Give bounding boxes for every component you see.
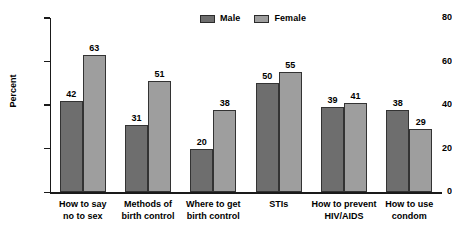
bar-value-label: 31 xyxy=(131,114,141,123)
bar-female-4: 41 xyxy=(344,103,367,192)
bar-value-label: 20 xyxy=(197,138,207,147)
x-axis-line xyxy=(50,192,442,193)
plot-area: 426331512038505539413829 xyxy=(50,18,442,192)
bar-chart: Male Female Percent 020406080 4263315120… xyxy=(0,0,452,242)
bar-female-0: 63 xyxy=(83,55,106,192)
bar-female-5: 29 xyxy=(409,129,432,192)
bar-value-label: 41 xyxy=(350,92,360,101)
bar-value-label: 38 xyxy=(393,99,403,108)
bar-female-1: 51 xyxy=(148,81,171,192)
x-axis-label: How to use condom xyxy=(369,199,450,222)
bar-group: 3941 xyxy=(311,18,376,192)
bar-female-3: 55 xyxy=(279,72,302,192)
bar-group-bars: 3829 xyxy=(377,18,442,192)
bar-group-bars: 3941 xyxy=(311,18,376,192)
bar-group: 2038 xyxy=(181,18,246,192)
bar-male-4: 39 xyxy=(321,107,344,192)
bar-value-label: 39 xyxy=(327,96,337,105)
bar-value-label: 50 xyxy=(262,72,272,81)
bar-male-5: 38 xyxy=(386,110,409,193)
bar-male-1: 31 xyxy=(125,125,148,193)
y-axis-title: Percent xyxy=(8,61,18,121)
bar-group-bars: 5055 xyxy=(246,18,311,192)
bar-male-0: 42 xyxy=(60,101,83,193)
bar-value-label: 51 xyxy=(154,70,164,79)
bar-group-bars: 4263 xyxy=(50,18,115,192)
bar-group-bars: 2038 xyxy=(181,18,246,192)
bar-male-3: 50 xyxy=(256,83,279,192)
bar-female-2: 38 xyxy=(213,110,236,193)
bar-value-label: 29 xyxy=(416,118,426,127)
bar-group: 3151 xyxy=(115,18,180,192)
bar-value-label: 42 xyxy=(66,90,76,99)
bar-value-label: 38 xyxy=(220,99,230,108)
bar-group-bars: 3151 xyxy=(115,18,180,192)
bar-male-2: 20 xyxy=(190,149,213,193)
bar-group: 3829 xyxy=(377,18,442,192)
bar-value-label: 63 xyxy=(89,44,99,53)
bar-group: 4263 xyxy=(50,18,115,192)
bar-value-label: 55 xyxy=(285,61,295,70)
bar-group: 5055 xyxy=(246,18,311,192)
